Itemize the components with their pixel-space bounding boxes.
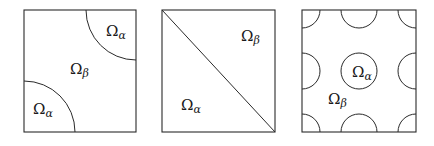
- corner-arc-top-right: [398, 10, 416, 28]
- label-omega-alpha-lower: Ωα: [181, 96, 201, 116]
- label-omega-alpha-center: Ωα: [352, 63, 372, 83]
- corner-arc-bottom-left: [302, 114, 320, 132]
- panel-3: Ωα Ωβ: [302, 10, 416, 132]
- label-omega-beta-center: Ωβ: [70, 60, 89, 80]
- domain-diagram: Ωα Ωβ Ωα Ωβ Ωα Ωα Ωβ: [0, 0, 434, 146]
- edge-arc-left: [302, 53, 320, 89]
- diagonal-interface: [162, 10, 275, 132]
- edge-arc-right: [398, 53, 416, 89]
- label-omega-alpha-bottom-left: Ωα: [33, 100, 53, 120]
- edge-arc-top: [341, 10, 377, 28]
- panel-1: Ωα Ωβ Ωα: [24, 10, 136, 132]
- corner-arc-bottom-right: [398, 114, 416, 132]
- label-omega-alpha-top-right: Ωα: [106, 22, 126, 42]
- panel-2: Ωβ Ωα: [162, 10, 275, 132]
- label-omega-beta-matrix: Ωβ: [328, 90, 347, 110]
- edge-arc-bottom: [341, 114, 377, 132]
- label-omega-beta-upper: Ωβ: [241, 27, 260, 47]
- corner-arc-top-left: [302, 10, 320, 28]
